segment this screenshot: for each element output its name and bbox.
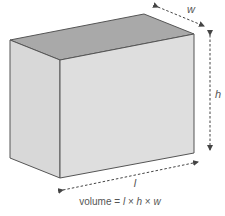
width-label: w [187, 3, 196, 15]
cuboid-volume-diagram: w h l volume = l × h × w [0, 0, 225, 216]
volume-formula: volume = l × h × w [79, 196, 161, 207]
side-face [10, 40, 60, 178]
formula-prefix: volume = [79, 196, 123, 207]
front-face [60, 34, 194, 178]
height-label: h [215, 88, 221, 100]
length-label: l [134, 177, 137, 189]
formula-times-1: × [125, 196, 136, 207]
formula-times-2: × [142, 196, 153, 207]
formula-w: w [154, 196, 162, 207]
